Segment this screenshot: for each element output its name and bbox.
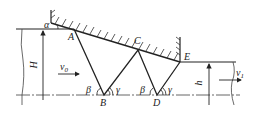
label-beta-D: β <box>140 85 145 95</box>
gamma-arc-D-outer <box>163 88 166 95</box>
beta-arc-D <box>150 88 153 95</box>
label-v0: v0 <box>60 62 68 74</box>
label-A: A <box>68 32 74 42</box>
label-v1: v1 <box>236 68 244 80</box>
gamma-arc-B-outer <box>110 88 113 95</box>
diagram-canvas: α A C E B D β γ β γ H h v0 v1 <box>0 0 258 113</box>
label-C: C <box>134 36 141 46</box>
label-gamma-B: γ <box>116 85 120 95</box>
label-H: H <box>29 61 39 68</box>
right-break-line <box>231 62 234 105</box>
jump-diagram <box>0 0 258 113</box>
label-B: B <box>100 98 106 108</box>
gamma-arc-B <box>108 90 110 95</box>
label-gamma-D: γ <box>168 85 172 95</box>
slanted-ceiling <box>51 23 180 62</box>
left-break-line <box>21 29 24 105</box>
label-h: h <box>194 81 204 86</box>
v1-subscript: 1 <box>240 72 244 80</box>
label-beta-B: β <box>86 85 91 95</box>
label-D: D <box>153 98 160 108</box>
v0-subscript: 0 <box>64 66 68 74</box>
label-E: E <box>184 52 190 62</box>
gamma-arc-D <box>161 90 163 95</box>
beta-arc-B <box>97 88 101 95</box>
label-alpha: α <box>44 20 49 30</box>
